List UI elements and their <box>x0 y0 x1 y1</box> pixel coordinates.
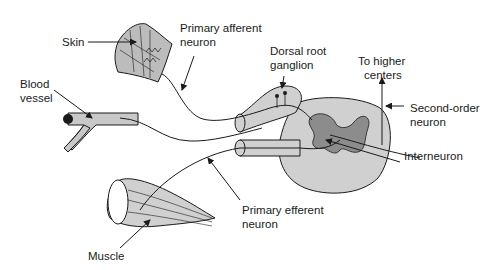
label-higher-centers-line1: To higher <box>358 55 405 68</box>
skin-illustration <box>115 24 172 82</box>
label-blood-vessel-line1: Blood <box>20 78 49 91</box>
label-primary-afferent-line2: neuron <box>180 36 216 49</box>
label-blood-vessel-line2: vessel <box>20 92 53 105</box>
label-primary-efferent-line1: Primary efferent <box>242 204 324 217</box>
label-dorsal-root-line1: Dorsal root <box>270 45 326 58</box>
label-higher-centers-line2: centers <box>364 69 402 82</box>
label-skin: Skin <box>62 36 84 49</box>
label-second-order-line2: neuron <box>410 116 446 129</box>
label-muscle: Muscle <box>88 250 124 263</box>
label-primary-afferent-line1: Primary afferent <box>180 22 262 35</box>
label-primary-efferent-line2: neuron <box>242 218 278 231</box>
label-interneuron: Interneuron <box>404 150 463 163</box>
label-second-order-line1: Second-order <box>410 102 480 115</box>
label-dorsal-root-line2: ganglion <box>270 59 313 72</box>
